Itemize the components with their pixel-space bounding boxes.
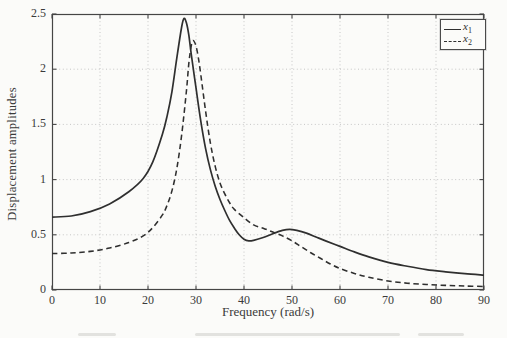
y-tick-label: 2.5 <box>0 6 46 21</box>
legend-item-x2: x2 <box>444 35 482 47</box>
y-tick-label: 1 <box>0 172 46 187</box>
chart-svg <box>52 14 484 290</box>
legend-solid-line-sample <box>444 29 461 30</box>
legend-label-x2: x2 <box>463 33 472 48</box>
figure-canvas: Displacement amplitudes 00.511.522.5 010… <box>0 0 507 338</box>
y-tick-label: 0.5 <box>0 227 46 242</box>
legend-dashed-line-sample <box>444 41 461 42</box>
cropped-caption-remnant <box>78 333 116 336</box>
curve-x1 <box>52 18 484 275</box>
x-axis-label: Frequency (rad/s) <box>52 304 484 320</box>
cropped-caption-remnant <box>195 333 400 336</box>
plot-area <box>52 14 484 290</box>
y-tick-label: 2 <box>0 61 46 76</box>
cropped-caption-remnant <box>418 333 464 336</box>
axes-box <box>53 15 484 290</box>
legend: x1 x2 <box>440 19 486 50</box>
curve-x2 <box>52 41 484 287</box>
y-tick-label: 1.5 <box>0 116 46 131</box>
